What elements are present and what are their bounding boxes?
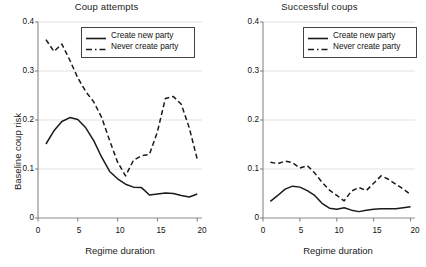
x-tick-label: 20 — [405, 226, 425, 235]
x-tick-label: 15 — [151, 226, 171, 235]
y-axis-title: Baseline coup risk — [12, 113, 23, 190]
legend-item-create-new-party: Create new party — [85, 30, 190, 41]
legend-label: Create new party — [111, 30, 173, 41]
legend-label: Never create party — [333, 41, 400, 52]
legend-label: Never create party — [111, 41, 178, 52]
legend: Create new party Never create party — [303, 27, 417, 58]
legend-key-solid-icon — [85, 30, 107, 41]
y-tick-label: 0 — [213, 213, 259, 222]
x-tick-label: 10 — [110, 226, 130, 235]
y-tick-label: 0.1 — [213, 164, 259, 173]
x-axis-title: Regime duration — [253, 245, 423, 256]
series-line-create-new-party — [270, 186, 410, 211]
legend-key-solid-icon — [307, 30, 329, 41]
series-line-create-new-party — [46, 118, 197, 197]
x-tick-label: 20 — [192, 226, 212, 235]
y-tick-label: 0.3 — [0, 66, 34, 75]
figure-canvas: Coup attempts 0.4 0.3 0.2 0.1 0 0 5 10 1… — [0, 0, 426, 267]
x-tick-label: 5 — [291, 226, 311, 235]
series-line-never-create-party — [270, 161, 410, 201]
x-axis-title: Regime duration — [30, 245, 210, 256]
x-tick-label: 0 — [253, 226, 273, 235]
series-line-never-create-party — [46, 40, 197, 176]
legend-key-dashed-icon — [307, 41, 329, 52]
y-tick-label: 0.4 — [0, 17, 34, 26]
y-tick-label: 0.3 — [213, 66, 259, 75]
y-tick-label: 0.4 — [213, 17, 259, 26]
legend-item-never-create-party: Never create party — [307, 41, 412, 52]
x-tick-label: 15 — [367, 226, 387, 235]
y-tick-label: 0 — [0, 213, 34, 222]
x-tick-label: 10 — [329, 226, 349, 235]
legend-item-never-create-party: Never create party — [85, 41, 190, 52]
panel-coup-attempts: Coup attempts 0.4 0.3 0.2 0.1 0 0 5 10 1… — [0, 0, 213, 267]
y-tick-label: 0.2 — [213, 115, 259, 124]
legend-key-dashed-icon — [85, 41, 107, 52]
x-tick-label: 5 — [69, 226, 89, 235]
legend: Create new party Never create party — [81, 27, 195, 58]
legend-label: Create new party — [333, 30, 395, 41]
panel-successful-coups: Successful coups 0.4 0.3 0.2 0.1 0 0 5 1… — [213, 0, 426, 267]
legend-item-create-new-party: Create new party — [307, 30, 412, 41]
x-tick-label: 0 — [28, 226, 48, 235]
